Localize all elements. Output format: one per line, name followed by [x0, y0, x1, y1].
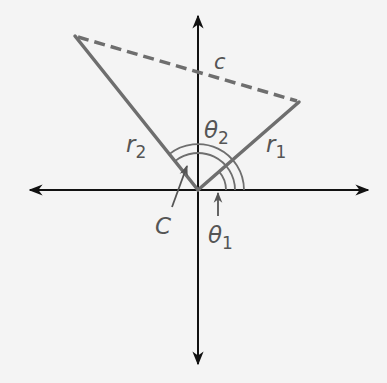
- diagram-canvas: c θ2 r2 r1 C θ1: [0, 0, 387, 383]
- label-theta1: θ1: [208, 222, 233, 253]
- C-pointer-arrow: [172, 166, 187, 207]
- label-c: c: [214, 50, 226, 74]
- label-theta2: θ2: [204, 117, 229, 148]
- segment-c-dashed: [78, 37, 297, 101]
- segment-r2: [75, 36, 198, 190]
- polar-diagram: c θ2 r2 r1 C θ1: [0, 0, 387, 383]
- label-r2: r2: [126, 131, 146, 162]
- label-C: C: [155, 213, 171, 239]
- label-r1: r1: [266, 131, 286, 162]
- theta1-arc: [219, 172, 226, 190]
